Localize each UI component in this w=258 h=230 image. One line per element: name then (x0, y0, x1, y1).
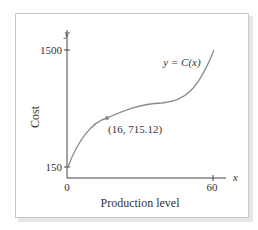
y-tick-label-150: 150 (46, 161, 63, 173)
curve-label: y = C(x) (162, 56, 201, 69)
chart: y x 1500 150 0 60 Production level Cost … (0, 0, 258, 230)
x-tick-label-60: 60 (207, 181, 219, 193)
x-axis-symbol: x (232, 171, 238, 183)
y-axis-label: Cost (28, 105, 42, 128)
x-tick-label-0: 0 (64, 181, 70, 193)
x-axis-label: Production level (101, 196, 181, 210)
y-axis-symbol: y (64, 27, 70, 39)
point-label: (16, 715.12) (108, 123, 162, 136)
point-marker (105, 116, 109, 120)
y-tick-label-1500: 1500 (40, 44, 63, 56)
